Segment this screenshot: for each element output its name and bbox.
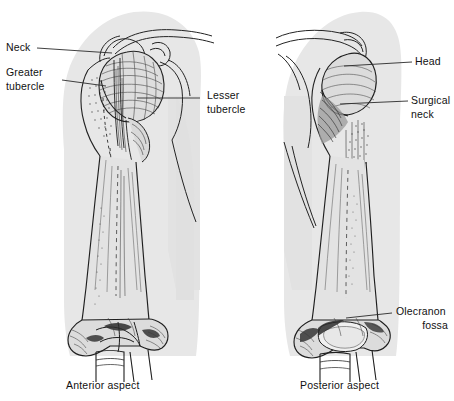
anatomy-figure: Neck Greater tubercle Lesser tubercle He… xyxy=(0,0,454,401)
label-olecranon-fossa-line1: Olecranon xyxy=(396,305,446,319)
humerus-illustration xyxy=(0,0,454,401)
label-head: Head xyxy=(415,55,441,69)
label-neck: Neck xyxy=(6,41,31,55)
label-lesser-tubercle-line1: Lesser xyxy=(207,89,239,103)
label-surgical-neck-line1: Surgical xyxy=(411,94,450,108)
left-humerus-distal xyxy=(68,318,168,382)
caption-posterior: Posterior aspect xyxy=(300,379,379,391)
label-greater-tubercle-line2: tubercle xyxy=(6,80,45,94)
label-surgical-neck-line2: neck xyxy=(411,108,434,122)
label-olecranon-fossa-line2: fossa xyxy=(396,319,448,333)
label-lesser-tubercle-line2: tubercle xyxy=(207,103,246,117)
label-greater-tubercle-line1: Greater xyxy=(6,66,43,80)
caption-anterior: Anterior aspect xyxy=(66,379,140,391)
right-humerus-distal xyxy=(294,318,390,382)
